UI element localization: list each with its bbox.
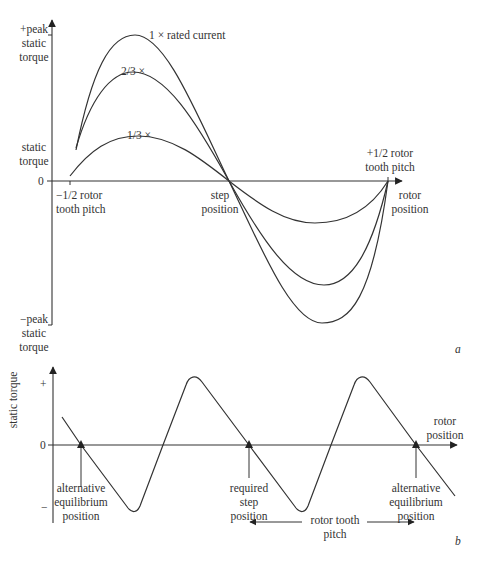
mid-annotation-line1: required xyxy=(219,481,279,495)
plot-b-x-axis-label-line1: rotor xyxy=(420,414,470,428)
right-annotation-line3: position xyxy=(386,509,446,523)
plot-b-x-axis-label-line2: position xyxy=(420,428,470,442)
left-annotation-line2: equilibrium xyxy=(51,495,111,509)
plot-b-y-plus: + xyxy=(40,377,47,391)
pitch-label-line1: rotor tooth xyxy=(302,513,368,527)
left-annotation-line1: alternative xyxy=(51,481,111,495)
mid-annotation-line2: step xyxy=(219,495,279,509)
plot-b-y-zero: 0 xyxy=(40,438,46,452)
plot-b-y-axis-label: static torque xyxy=(6,355,20,445)
right-annotation-line2: equilibrium xyxy=(386,495,446,509)
right-annotation-line1: alternative xyxy=(386,481,446,495)
panel-label-b: b xyxy=(455,534,461,548)
pitch-label-line2: pitch xyxy=(302,527,368,541)
mid-annotation-line3: position xyxy=(219,509,279,523)
left-annotation-line3: position xyxy=(51,509,111,523)
plot-b-y-minus: − xyxy=(41,500,48,514)
